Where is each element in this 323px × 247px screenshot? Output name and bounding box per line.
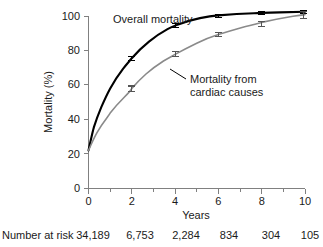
risk-value-year6: 834 <box>220 229 238 241</box>
x-tick-label-0: 0 <box>85 195 91 207</box>
y-axis-ticks <box>84 16 89 189</box>
x-tick-label-8: 8 <box>259 195 265 207</box>
number-at-risk-table: Number at risk 34,189 6,753 2,284 834 30… <box>2 229 319 241</box>
figure-container: 0 20 40 60 80 100 0 2 4 6 8 10 Mortality… <box>0 0 323 247</box>
risk-value-year0: 34,189 <box>76 229 110 241</box>
risk-value-year4: 2,284 <box>172 229 200 241</box>
x-tick-label-6: 6 <box>215 195 221 207</box>
y-tick-label-100: 100 <box>62 10 80 22</box>
y-tick-label-80: 80 <box>68 44 80 56</box>
overall-mortality-label: Overall mortality <box>113 13 193 25</box>
y-tick-labels: 0 20 40 60 80 100 <box>62 10 80 194</box>
x-tick-label-2: 2 <box>129 195 135 207</box>
y-tick-label-40: 40 <box>68 113 80 125</box>
y-tick-label-60: 60 <box>68 78 80 90</box>
y-tick-label-0: 0 <box>74 182 80 194</box>
risk-value-year10: 105 <box>301 229 319 241</box>
number-at-risk-label: Number at risk <box>2 229 74 241</box>
y-axis-title: Mortality (%) <box>42 71 54 133</box>
mortality-chart: 0 20 40 60 80 100 0 2 4 6 8 10 Mortality… <box>0 0 323 247</box>
x-axis-title: Years <box>182 209 210 221</box>
x-tick-labels: 0 2 4 6 8 10 <box>85 195 311 207</box>
x-tick-label-4: 4 <box>172 195 178 207</box>
y-tick-label-20: 20 <box>68 148 80 160</box>
cardiac-mortality-label-line2: cardiac causes <box>190 86 264 98</box>
cardiac-label-leader-line <box>170 69 186 79</box>
x-tick-label-10: 10 <box>299 195 311 207</box>
x-axis-minor-ticks <box>110 189 283 193</box>
risk-value-year2: 6,753 <box>126 229 154 241</box>
cardiac-mortality-label-line1: Mortality from <box>190 73 257 85</box>
risk-value-year8: 304 <box>262 229 280 241</box>
